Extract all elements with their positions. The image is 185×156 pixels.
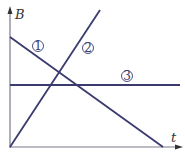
line-2: [10, 10, 100, 147]
line-3-label: 3: [122, 69, 133, 83]
b-t-graph: B t 1 2 3: [0, 0, 185, 156]
x-axis-label: t: [171, 130, 177, 145]
y-axis-arrow-icon: [8, 6, 13, 14]
line-1-label: 1: [33, 39, 44, 53]
svg-text:1: 1: [34, 39, 42, 53]
x-axis-arrow-icon: [175, 145, 183, 150]
svg-text:3: 3: [123, 69, 131, 83]
line-2-label: 2: [83, 41, 94, 55]
svg-text:2: 2: [84, 41, 92, 55]
y-axis-label: B: [14, 7, 25, 22]
